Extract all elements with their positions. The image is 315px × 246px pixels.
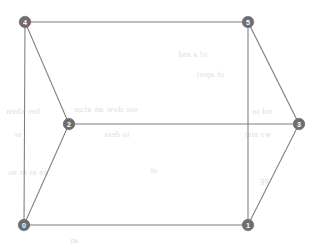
- graph-node-2[interactable]: 2: [63, 118, 75, 130]
- graph-node-5[interactable]: 5: [242, 16, 254, 28]
- graph-node-circle-5[interactable]: [242, 16, 254, 28]
- graph-node-0[interactable]: 0: [18, 219, 30, 231]
- graph-node-circle-0[interactable]: [18, 219, 30, 231]
- graph-node-circle-3[interactable]: [293, 118, 305, 130]
- graph-node-4[interactable]: 4: [19, 16, 31, 28]
- graph-edge-4-0: [24, 22, 25, 225]
- graph-edge-5-3: [248, 22, 299, 124]
- graph-edge-4-2: [25, 22, 69, 124]
- graph-figure-canvas: of a andin aportber shensor dow an afonn…: [0, 0, 315, 246]
- graph-node-circle-4[interactable]: [19, 16, 31, 28]
- graph-node-circle-1[interactable]: [242, 219, 254, 231]
- graph-drawing: 012345: [0, 0, 315, 246]
- graph-node-3[interactable]: 3: [293, 118, 305, 130]
- graph-node-circle-2[interactable]: [63, 118, 75, 130]
- graph-edge-2-0: [24, 124, 69, 225]
- graph-node-1[interactable]: 1: [242, 219, 254, 231]
- graph-edge-3-1: [248, 124, 299, 225]
